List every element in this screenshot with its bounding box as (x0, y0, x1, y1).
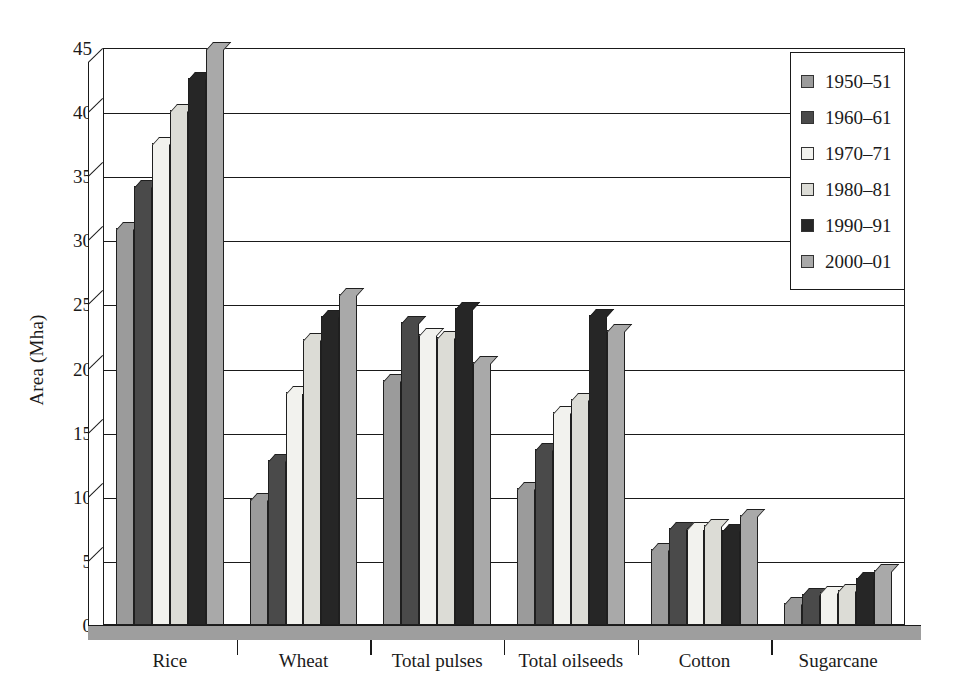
bar (802, 594, 820, 625)
bar (206, 48, 224, 625)
bar (286, 392, 304, 625)
bar (856, 578, 874, 625)
legend-label: 1950–51 (825, 72, 892, 91)
bar (419, 334, 437, 625)
y-axis-ticks: 051015202530354045 (52, 0, 92, 698)
y-axis-tick-label: 35 (52, 167, 92, 186)
bar (517, 488, 535, 625)
bar (437, 337, 455, 626)
y-axis-tick-label: 45 (52, 39, 92, 58)
bar (553, 412, 571, 625)
legend-swatch (801, 75, 814, 88)
x-axis-tick-mark (370, 640, 371, 655)
bar-top-cap (401, 316, 426, 324)
y-axis-tick-label: 10 (52, 487, 92, 506)
bar-group (250, 48, 358, 625)
bar-group (651, 48, 759, 625)
x-axis-label: Sugarcane (799, 650, 878, 672)
bar-group (116, 48, 224, 625)
bar (687, 528, 705, 625)
bar (535, 449, 553, 625)
bar (303, 339, 321, 625)
x-axis-label: Rice (152, 650, 187, 672)
bar (784, 603, 802, 625)
x-axis-tick-mark (504, 640, 505, 655)
bar (874, 570, 892, 625)
bar (170, 110, 188, 625)
bar-top-cap (339, 288, 364, 296)
bar (116, 228, 134, 625)
legend-swatch (801, 183, 814, 196)
y-axis-tick-label: 0 (52, 616, 92, 635)
bar-top-cap (473, 356, 498, 364)
bar-top-cap (607, 324, 632, 332)
x-axis-tick-mark (237, 640, 238, 655)
x-axis-label: Wheat (279, 650, 329, 672)
bar (589, 315, 607, 625)
bar-top-cap (740, 509, 765, 517)
bar (152, 143, 170, 625)
bars-layer (103, 48, 905, 625)
bar-group (517, 48, 625, 625)
legend-swatch (801, 147, 814, 160)
bar (740, 515, 758, 625)
y-axis-tick-label: 20 (52, 359, 92, 378)
bar-top-cap (455, 302, 480, 310)
x-axis-label: Cotton (679, 650, 731, 672)
bar-group (383, 48, 491, 625)
legend-swatch (801, 255, 814, 268)
legend-label: 1960–61 (825, 108, 892, 127)
legend-item: 1950–51 (791, 63, 904, 99)
x-axis-tick-mark (638, 640, 639, 655)
legend-item: 1960–61 (791, 99, 904, 135)
legend-item: 1980–81 (791, 171, 904, 207)
y-axis-tick-label: 25 (52, 295, 92, 314)
legend-swatch (801, 219, 814, 232)
bar (669, 528, 687, 625)
x-axis-label: Total pulses (392, 650, 483, 672)
y-axis-tick-label: 40 (52, 103, 92, 122)
x-axis-tick-mark (771, 640, 772, 655)
legend-label: 1970–71 (825, 144, 892, 163)
bar (571, 399, 589, 625)
legend-swatch (801, 111, 814, 124)
bar (473, 362, 491, 625)
bar (401, 322, 419, 625)
y-axis-title-label: Area (Mha) (26, 265, 48, 455)
y-axis-tick-label: 15 (52, 423, 92, 442)
bar (651, 549, 669, 625)
bar (838, 590, 856, 625)
legend-label: 1990–91 (825, 216, 892, 235)
plot-floor (88, 625, 921, 640)
bar (250, 499, 268, 625)
bar (820, 592, 838, 625)
bar (321, 316, 339, 625)
bar-top-cap (589, 309, 614, 317)
bar (704, 525, 722, 625)
legend: 1950–511960–611970–711980–811990–912000–… (790, 52, 905, 290)
bar (607, 330, 625, 625)
legend-label: 1980–81 (825, 180, 892, 199)
bar (383, 380, 401, 625)
y-axis-tick-label: 30 (52, 231, 92, 250)
bar (134, 186, 152, 625)
bar-chart: Area (Mha) 051015202530354045 RiceWheatT… (0, 0, 962, 698)
bar (339, 294, 357, 625)
x-axis-label: Total oilseeds (518, 650, 623, 672)
legend-item: 1990–91 (791, 207, 904, 243)
bar (455, 308, 473, 625)
bar (722, 530, 740, 625)
bar (268, 460, 286, 625)
legend-item: 1970–71 (791, 135, 904, 171)
legend-item: 2000–01 (791, 243, 904, 279)
y-axis-tick-label: 5 (52, 551, 92, 570)
bar-top-cap (206, 42, 231, 50)
bar (188, 78, 206, 626)
legend-label: 2000–01 (825, 252, 892, 271)
bar-top-cap (874, 564, 899, 572)
